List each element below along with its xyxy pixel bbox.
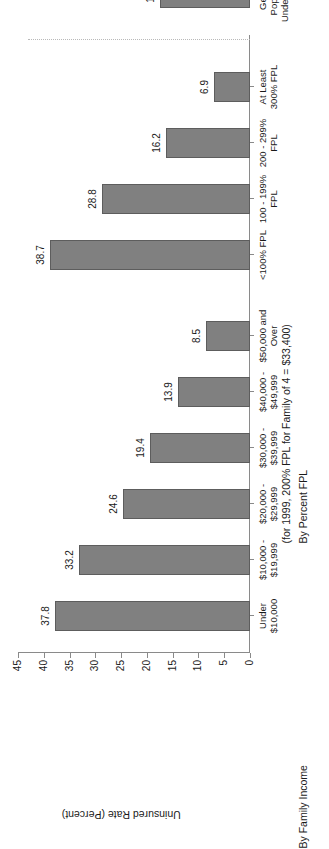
category-tick-mark [250, 447, 254, 448]
tick-label: 35 [65, 660, 75, 671]
bar-group[interactable]: 17.5GeneralPopulationUnder Age 65 [18, 0, 250, 8]
bar[interactable] [178, 377, 250, 407]
tick-mark [224, 653, 225, 658]
bar-group[interactable]: 8.5$50,000 andOver [18, 321, 250, 351]
bar[interactable] [150, 433, 250, 463]
tick-label: 45 [13, 660, 23, 671]
bar-value-label: 8.5 [192, 329, 202, 343]
tick-label: 15 [168, 660, 178, 671]
tick-label: 10 [193, 660, 203, 671]
category-tick-mark [250, 254, 254, 255]
bar-group[interactable]: 24.6$20,000 -$29,999 [18, 489, 250, 519]
tick-label: 0 [245, 660, 255, 666]
bar-value-label: 6.9 [200, 80, 210, 94]
bar-group[interactable]: 38.7<100% FPL [18, 240, 250, 270]
bar[interactable] [160, 0, 250, 8]
category-label-line: At Least [257, 50, 268, 124]
category-label-line: Population [268, 0, 279, 30]
tick-mark [44, 653, 45, 658]
tick-label: 30 [90, 660, 100, 671]
tick-label: 20 [142, 660, 152, 671]
tick-mark [198, 653, 199, 658]
bar-group[interactable]: 6.9At Least300% FPL [18, 72, 250, 102]
bar-value-label: 28.8 [88, 189, 98, 208]
tick-mark [70, 653, 71, 658]
tick-mark [173, 653, 174, 658]
bar[interactable] [206, 321, 250, 351]
bar-value-label: 24.6 [109, 494, 119, 513]
category-label-line: Over [268, 299, 279, 373]
bar[interactable] [166, 128, 250, 158]
category-label: At Least300% FPL [257, 50, 279, 124]
bar[interactable] [55, 601, 250, 631]
bar-group[interactable]: 16.2200 - 299%FPL [18, 128, 250, 158]
value-axis-title: Uninsured Rate (Percent) [31, 810, 211, 821]
category-tick-mark [250, 198, 254, 199]
bar-value-label: 13.9 [164, 382, 174, 401]
bar-group[interactable]: 37.8Under$10,000 [18, 601, 250, 631]
bar-value-label: 17.5 [146, 0, 156, 3]
bar-group[interactable]: 28.8100 - 199%FPL [18, 184, 250, 214]
category-tick-mark [250, 86, 254, 87]
category-tick-mark [250, 615, 254, 616]
category-label: $50,000 andOver [257, 299, 279, 373]
tick-label: 25 [116, 660, 126, 671]
bar[interactable] [214, 72, 250, 102]
category-tick-mark [250, 142, 254, 143]
bar[interactable] [50, 240, 250, 270]
plot-area: 051015202530354045 37.8Under$10,00033.2$… [18, 35, 250, 653]
group-note-fpl: (for 1999, 200% FPL for Family of 4 = $3… [280, 0, 293, 544]
tick-mark [18, 653, 19, 658]
category-tick-mark [250, 503, 254, 504]
bar-value-label: 38.7 [36, 245, 46, 264]
bar[interactable] [123, 489, 250, 519]
tick-label: 40 [39, 660, 49, 671]
category-label-line: 300% FPL [268, 50, 279, 124]
bar-value-label: 37.8 [41, 606, 51, 625]
tick-mark [95, 653, 96, 658]
group-separator-line [28, 39, 250, 40]
category-tick-mark [250, 335, 254, 336]
category-tick-mark [250, 559, 254, 560]
bar-group[interactable]: 33.2$10,000 -$19,999 [18, 545, 250, 575]
tick-mark [121, 653, 122, 658]
tick-label: 5 [219, 660, 229, 666]
bar[interactable] [79, 545, 250, 575]
bar-value-label: 16.2 [152, 133, 162, 152]
bar-value-label: 33.2 [65, 550, 75, 569]
category-tick-mark [250, 391, 254, 392]
category-label-line: General [257, 0, 268, 30]
group-caption-fpl: By Percent FPL [297, 0, 310, 544]
bar[interactable] [102, 184, 250, 214]
bar-group[interactable]: 13.9$40,000 -$49,999 [18, 377, 250, 407]
value-axis-line [18, 652, 250, 653]
tick-mark [147, 653, 148, 658]
bar-group[interactable]: 19.4$30,000 -$39,999 [18, 433, 250, 463]
tick-mark [250, 653, 251, 658]
category-label-line: $50,000 and [257, 299, 268, 373]
bar-value-label: 19.4 [136, 438, 146, 457]
